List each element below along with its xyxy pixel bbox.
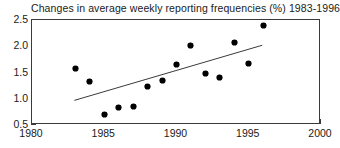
- chart-title: Changes in average weekly reporting freq…: [31, 1, 331, 15]
- data-point: [131, 104, 136, 109]
- x-tick-label: 1990: [156, 128, 196, 139]
- data-point: [145, 84, 150, 89]
- data-point: [203, 71, 208, 76]
- data-point: [232, 40, 237, 45]
- data-point: [188, 43, 193, 48]
- y-tick-label: 1.5: [0, 67, 28, 77]
- data-point: [87, 79, 92, 84]
- data-point: [174, 62, 179, 67]
- data-point: [102, 112, 107, 117]
- y-tick-label: 2.0: [0, 40, 28, 50]
- x-tick-label: 2000: [300, 128, 340, 139]
- y-tick-label: 1.0: [0, 93, 28, 103]
- x-tick-label: 1980: [11, 128, 51, 139]
- data-point: [246, 61, 251, 66]
- data-point: [73, 66, 78, 71]
- data-points-layer: [32, 20, 319, 123]
- data-point: [261, 23, 266, 28]
- x-tick-mark: [320, 119, 321, 124]
- y-tick-label: 2.5: [0, 14, 28, 24]
- x-tick-label: 1995: [228, 128, 268, 139]
- data-point: [116, 105, 121, 110]
- y-tick-mark: [31, 124, 36, 125]
- data-point: [160, 78, 165, 83]
- x-tick-label: 1985: [83, 128, 123, 139]
- data-point: [217, 75, 222, 80]
- plot-area: [31, 19, 320, 124]
